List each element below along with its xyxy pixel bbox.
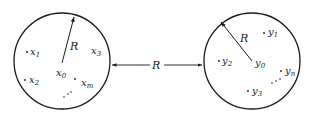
point-xm-dot xyxy=(74,78,76,80)
point-y2-label: y2 xyxy=(221,55,233,68)
right-ellipsis-dots xyxy=(271,78,281,84)
left-radius-label: R xyxy=(69,40,78,53)
point-y1-label: y1 xyxy=(267,26,278,39)
left-circle xyxy=(14,13,110,109)
right-radius-label: R xyxy=(239,32,248,45)
left-ellipsis-dots xyxy=(63,91,72,98)
right-center-label: y0 xyxy=(254,57,266,70)
point-yn-label: yn xyxy=(284,65,296,78)
distance-arrow: R xyxy=(112,59,202,72)
right-set: R y0 y1 y2 y3 yn xyxy=(204,13,300,109)
point-y3-label: y3 xyxy=(251,85,263,98)
point-y2-dot xyxy=(218,60,220,62)
distance-label: R xyxy=(151,59,160,72)
point-y1-dot xyxy=(263,32,265,34)
left-center-label: x0 xyxy=(56,67,67,80)
point-xm-label: xm xyxy=(81,77,94,90)
left-set: R x0 x1 x2 x3 xm xyxy=(14,13,110,109)
diagram-canvas: R x0 x1 x2 x3 xm R R y0 y1 y2 y3 yn xyxy=(0,0,311,122)
point-x3-label: x3 xyxy=(91,45,102,58)
point-y3-dot xyxy=(247,90,249,92)
point-x2-label: x2 xyxy=(29,74,40,87)
point-yn-dot xyxy=(280,70,282,72)
point-x1-label: x1 xyxy=(30,46,40,59)
point-x1-dot xyxy=(26,51,28,53)
point-x2-dot xyxy=(24,79,26,81)
